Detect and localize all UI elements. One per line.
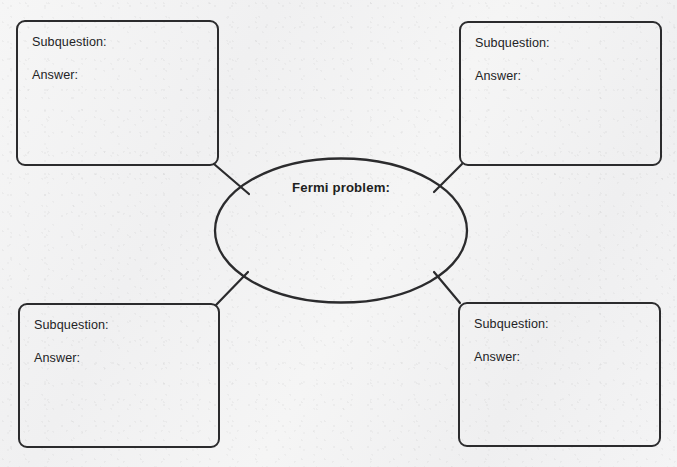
- subquestion-box-bottom-left[interactable]: Subquestion: Answer:: [18, 303, 220, 448]
- subquestion-box-top-right[interactable]: Subquestion: Answer:: [459, 21, 662, 166]
- answer-label-top-right: Answer:: [475, 70, 660, 83]
- subquestion-label-top-left: Subquestion:: [32, 36, 217, 49]
- answer-label-bottom-left: Answer:: [34, 352, 218, 365]
- subquestion-box-bottom-right[interactable]: Subquestion: Answer:: [458, 302, 661, 447]
- answer-label-bottom-right: Answer:: [474, 351, 659, 364]
- fermi-problem-label: Fermi problem:: [214, 180, 468, 195]
- subquestion-box-top-left[interactable]: Subquestion: Answer:: [16, 20, 219, 166]
- subquestion-label-bottom-left: Subquestion:: [34, 319, 218, 332]
- subquestion-label-top-right: Subquestion:: [475, 37, 660, 50]
- worksheet-page: Fermi problem: Subquestion: Answer: Subq…: [0, 0, 677, 467]
- answer-label-top-left: Answer:: [32, 69, 217, 82]
- subquestion-label-bottom-right: Subquestion:: [474, 318, 659, 331]
